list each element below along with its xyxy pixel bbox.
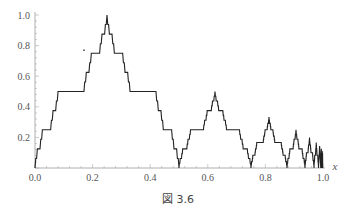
y-tick-label: 0.6	[18, 71, 31, 82]
data-line	[35, 15, 323, 168]
y-tick-label: 0.2	[18, 132, 31, 143]
y-tick-label: 1.0	[18, 10, 31, 21]
stray-dot	[83, 49, 85, 51]
x-tick-label: 0.2	[86, 172, 99, 183]
x-tick-label: 0.0	[29, 172, 42, 183]
x-tick-label: 0.6	[202, 172, 215, 183]
x-axis-label: x	[332, 160, 338, 172]
x-tick-label: 0.8	[259, 172, 272, 183]
figure-caption: 図 3.6	[0, 190, 356, 206]
y-tick-label: 0.4	[18, 101, 31, 112]
chart: 0.00.20.40.60.81.00.20.40.60.81.0x	[0, 0, 356, 190]
y-tick-label: 0.8	[18, 40, 31, 51]
x-tick-label: 0.4	[144, 172, 157, 183]
x-tick-label: 1.0	[317, 172, 330, 183]
